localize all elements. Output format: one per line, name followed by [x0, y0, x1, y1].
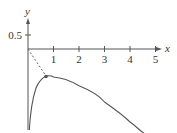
x-axis-label: x: [164, 42, 170, 54]
x-tick-label: 3: [102, 53, 108, 65]
x-tick-label: 4: [127, 53, 133, 65]
x-tick-label: 2: [76, 53, 82, 65]
tangent-point: [44, 75, 48, 79]
curve: [29, 76, 145, 133]
y-tick-label: 0.5: [8, 29, 22, 41]
y-axis-label: y: [24, 5, 30, 17]
plot-area: 1 2 3 4 5 0.5 x y: [0, 0, 177, 133]
x-axis-arrow-icon: [156, 47, 162, 51]
x-tick-label: 1: [51, 53, 57, 65]
dashed-line: [28, 49, 46, 76]
y-axis-arrow-icon: [26, 18, 30, 24]
x-tick-label: 5: [153, 53, 159, 65]
